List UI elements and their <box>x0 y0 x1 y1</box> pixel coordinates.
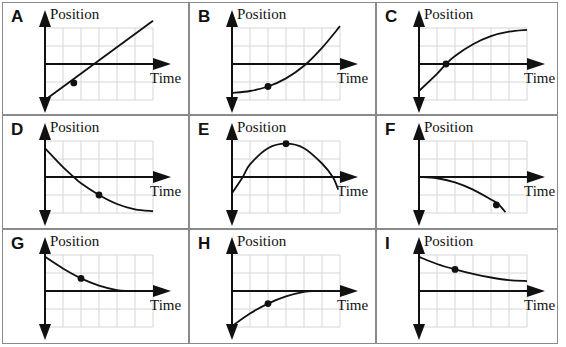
x-axis-label: Time <box>150 297 181 314</box>
panel-letter: G <box>11 234 24 254</box>
graph-panel-d: D Position Time <box>2 115 189 229</box>
right-arrow-icon <box>527 58 545 70</box>
down-arrow-icon <box>39 210 51 226</box>
x-axis-label: Time <box>524 70 555 87</box>
down-arrow-icon <box>413 210 425 226</box>
x-axis-label: Time <box>524 183 555 200</box>
x-axis-label: Time <box>337 70 368 87</box>
y-axis-label: Position <box>50 233 99 250</box>
y-axis-label: Position <box>424 233 473 250</box>
y-axis-label: Position <box>424 6 473 23</box>
graph-panel-i: I Position Time <box>376 229 558 344</box>
panel-letter: H <box>198 234 210 254</box>
graph-grid: A Position Time B Position Time C Positi… <box>0 0 566 347</box>
x-axis-label: Time <box>337 183 368 200</box>
y-axis-label: Position <box>424 119 473 136</box>
panel-letter: F <box>385 120 395 140</box>
panel-letter: D <box>11 120 23 140</box>
down-arrow-icon <box>39 324 51 340</box>
right-arrow-icon <box>153 58 171 70</box>
position-curve <box>45 257 128 291</box>
x-axis-label: Time <box>337 297 368 314</box>
x-axis-label: Time <box>150 183 181 200</box>
right-arrow-icon <box>340 58 358 70</box>
right-arrow-icon <box>153 285 171 297</box>
point-marker <box>265 83 272 90</box>
graph-panel-f: F Position Time <box>376 115 558 229</box>
panel-letter: B <box>198 7 210 27</box>
y-axis-label: Position <box>237 6 286 23</box>
right-arrow-icon <box>153 171 171 183</box>
point-marker <box>452 266 459 273</box>
graph-panel-g: G Position Time <box>2 229 189 344</box>
panel-letter: C <box>385 7 397 27</box>
down-arrow-icon <box>226 324 238 340</box>
point-marker <box>443 61 450 68</box>
y-axis-label: Position <box>237 119 286 136</box>
x-axis-label: Time <box>524 297 555 314</box>
graph-panel-b: B Position Time <box>189 2 376 115</box>
right-arrow-icon <box>527 171 545 183</box>
graph-panel-c: C Position Time <box>376 2 558 115</box>
down-arrow-icon <box>226 97 238 113</box>
point-marker <box>78 275 85 282</box>
down-arrow-icon <box>413 324 425 340</box>
x-axis-label: Time <box>150 70 181 87</box>
y-axis-label: Position <box>50 6 99 23</box>
point-marker <box>70 80 77 87</box>
down-arrow-icon <box>226 210 238 226</box>
right-arrow-icon <box>527 285 545 297</box>
down-arrow-icon <box>413 97 425 113</box>
point-marker <box>96 192 103 199</box>
point-marker <box>265 300 272 307</box>
panel-letter: I <box>385 234 390 254</box>
right-arrow-icon <box>340 285 358 297</box>
graph-panel-a: A Position Time <box>2 2 189 115</box>
graph-panel-h: H Position Time <box>189 229 376 344</box>
panel-letter: A <box>11 7 23 27</box>
panel-letter: E <box>198 120 209 140</box>
point-marker <box>493 202 500 209</box>
graph-panel-e: E Position Time <box>189 115 376 229</box>
right-arrow-icon <box>340 171 358 183</box>
point-marker <box>283 140 290 147</box>
y-axis-label: Position <box>237 233 286 250</box>
y-axis-label: Position <box>50 119 99 136</box>
